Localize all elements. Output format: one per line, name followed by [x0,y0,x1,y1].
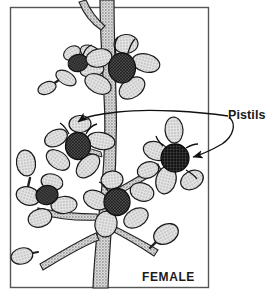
lower-left-branch [40,233,99,270]
leader-line-left [78,110,228,122]
pistil [109,53,136,83]
female-flower-diagram [0,0,276,296]
right-branch [110,225,158,256]
leader-line-right [193,118,233,157]
bud-left-lower [9,246,34,267]
bud-left-upper [15,149,37,177]
pistils-label: Pistils [228,108,266,122]
pistil [66,133,91,160]
lower-left-flower [14,172,78,230]
illustration-root: Pistils FEMALE [0,0,276,296]
petal [113,34,138,55]
pistil [161,144,189,172]
female-label: FEMALE [142,270,195,284]
petal [164,116,184,143]
pistil [104,189,130,216]
